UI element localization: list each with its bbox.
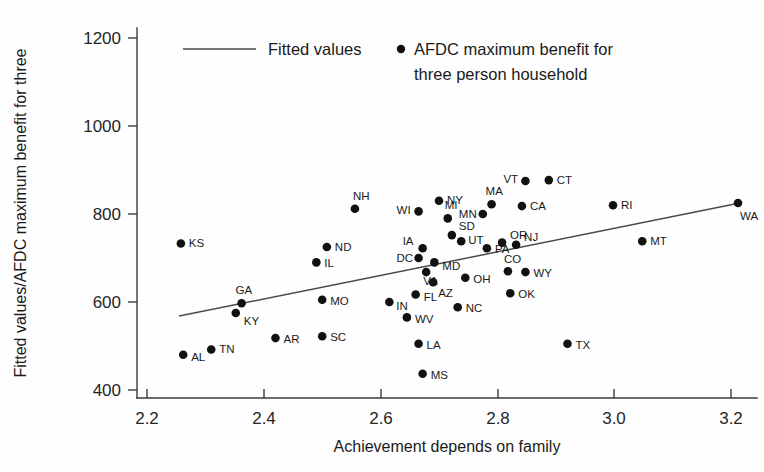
data-point-sc[interactable]: SC — [318, 331, 346, 343]
point-marker[interactable] — [430, 258, 439, 267]
point-marker[interactable] — [351, 204, 360, 213]
data-point-fl[interactable]: FL — [411, 290, 437, 302]
point-marker[interactable] — [734, 199, 743, 208]
data-point-wi[interactable]: WI — [397, 204, 423, 216]
point-label: AZ — [438, 287, 453, 299]
point-marker[interactable] — [385, 298, 394, 307]
data-point-ar[interactable]: AR — [271, 333, 299, 345]
data-point-wv[interactable]: WV — [403, 313, 434, 325]
point-marker[interactable] — [318, 332, 327, 341]
data-point-ks[interactable]: KS — [177, 237, 205, 249]
data-point-nh[interactable]: NH — [351, 190, 370, 213]
point-label: MO — [330, 295, 349, 307]
scatter-points-layer: KSGAKYALTNARSCMOILNDNHINWVWIFLDCIANYVAMD… — [177, 173, 759, 381]
point-marker[interactable] — [318, 296, 327, 305]
point-marker[interactable] — [479, 210, 488, 219]
data-point-tx[interactable]: TX — [563, 339, 590, 351]
point-marker[interactable] — [237, 299, 246, 308]
data-point-ca[interactable]: CA — [518, 200, 547, 212]
data-point-mi[interactable]: MI — [443, 199, 457, 222]
data-point-mn[interactable]: MN — [459, 208, 487, 220]
data-point-nc[interactable]: NC — [453, 302, 482, 314]
data-point-vt[interactable]: VT — [503, 173, 529, 185]
data-point-ma[interactable]: MA — [486, 185, 504, 208]
point-label: RI — [621, 199, 633, 211]
point-label: IL — [324, 257, 334, 269]
legend-label-fitted-values: Fitted values — [268, 40, 362, 58]
point-marker[interactable] — [563, 340, 572, 349]
point-marker[interactable] — [638, 237, 647, 246]
data-point-ut[interactable]: UT — [457, 234, 484, 246]
y-axis-title: Fitted values/AFDC maximum benefit for t… — [12, 48, 29, 377]
data-point-tn[interactable]: TN — [207, 343, 235, 355]
point-marker[interactable] — [207, 345, 216, 354]
data-point-nd[interactable]: ND — [323, 241, 352, 253]
point-marker[interactable] — [457, 237, 466, 246]
data-point-ok[interactable]: OK — [506, 288, 535, 300]
data-point-ct[interactable]: CT — [544, 174, 572, 186]
point-marker[interactable] — [231, 309, 240, 318]
data-point-oh[interactable]: OH — [461, 273, 491, 285]
data-point-ri[interactable]: RI — [609, 199, 633, 211]
point-marker[interactable] — [504, 267, 513, 276]
point-label: MD — [442, 260, 460, 272]
point-marker[interactable] — [429, 278, 438, 287]
data-point-wa[interactable]: WA — [734, 199, 759, 222]
x-axis-title: Achievement depends on family — [334, 438, 561, 455]
point-marker[interactable] — [498, 238, 507, 247]
point-marker[interactable] — [453, 303, 462, 312]
point-marker[interactable] — [506, 289, 515, 298]
data-point-ga[interactable]: GA — [236, 284, 253, 307]
x-tick-label-2-4: 2.4 — [252, 409, 276, 428]
point-marker[interactable] — [312, 258, 321, 267]
data-point-al[interactable]: AL — [179, 351, 206, 363]
point-label: WI — [397, 204, 411, 216]
point-label: WY — [533, 267, 552, 279]
data-point-ms[interactable]: MS — [418, 369, 448, 381]
point-marker[interactable] — [512, 241, 521, 250]
point-label: DC — [397, 252, 414, 264]
point-label: MI — [445, 199, 458, 211]
point-marker[interactable] — [418, 369, 427, 378]
legend-label-afdc-line2: three person household — [414, 65, 587, 83]
y-tick-label-400: 400 — [93, 381, 121, 400]
data-point-mo[interactable]: MO — [318, 295, 349, 307]
point-marker[interactable] — [544, 176, 553, 185]
data-point-wy[interactable]: WY — [521, 267, 552, 279]
point-marker[interactable] — [414, 207, 423, 216]
point-marker[interactable] — [443, 214, 452, 223]
point-marker[interactable] — [271, 334, 280, 343]
point-marker[interactable] — [487, 200, 496, 209]
point-marker[interactable] — [323, 243, 332, 252]
x-tick-label-2-8: 2.8 — [486, 409, 510, 428]
point-label: OH — [473, 273, 490, 285]
data-point-la[interactable]: LA — [414, 339, 441, 351]
point-label: CA — [530, 200, 546, 212]
data-point-mt[interactable]: MT — [638, 235, 667, 247]
point-label: AL — [191, 351, 206, 363]
point-marker[interactable] — [414, 254, 423, 263]
point-marker[interactable] — [518, 202, 527, 211]
point-marker[interactable] — [483, 244, 492, 253]
point-marker[interactable] — [411, 290, 420, 299]
point-marker[interactable] — [414, 340, 423, 349]
point-marker[interactable] — [609, 201, 618, 210]
point-label: VT — [503, 173, 518, 185]
data-point-in[interactable]: IN — [385, 298, 408, 312]
data-point-ia[interactable]: IA — [403, 235, 427, 252]
point-marker[interactable] — [418, 244, 427, 253]
point-marker[interactable] — [179, 351, 188, 360]
data-point-co[interactable]: CO — [504, 253, 522, 275]
point-marker[interactable] — [435, 197, 444, 206]
x-tick-label-2-2: 2.2 — [135, 409, 159, 428]
point-marker[interactable] — [403, 313, 412, 322]
data-point-ky[interactable]: KY — [231, 309, 259, 327]
data-point-il[interactable]: IL — [312, 257, 334, 269]
point-marker[interactable] — [448, 231, 457, 240]
point-marker[interactable] — [461, 274, 470, 283]
data-point-dc[interactable]: DC — [397, 252, 423, 264]
point-marker[interactable] — [177, 239, 186, 248]
data-point-md[interactable]: MD — [430, 258, 460, 272]
point-marker[interactable] — [521, 268, 530, 277]
point-marker[interactable] — [521, 177, 530, 186]
